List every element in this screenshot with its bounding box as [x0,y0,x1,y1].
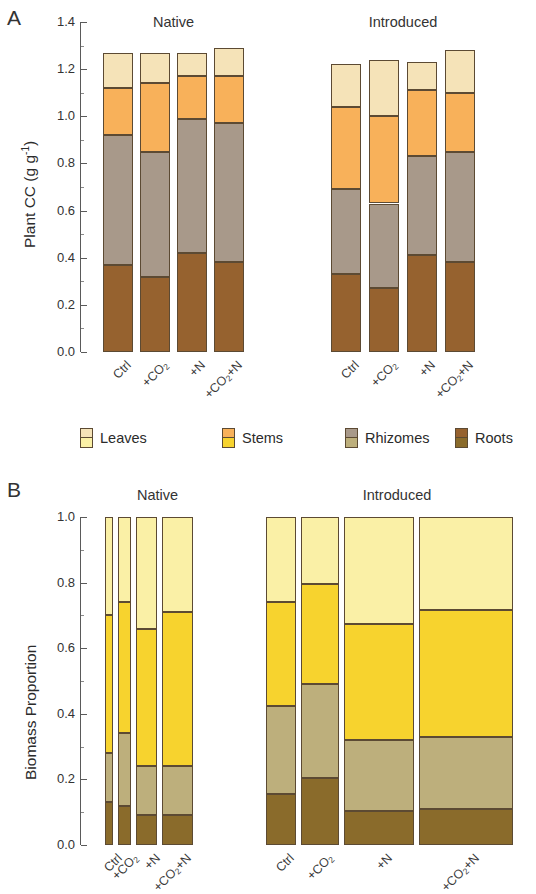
legend-label: Leaves [100,430,147,446]
panel-a-y-axis-tick [81,352,87,353]
panel-a-segment-stems [369,116,399,203]
panel-b-segment-rhizomes [266,706,296,795]
legend-swatch-panel-a [222,428,235,438]
panel-b-y-axis-minor-tick [81,681,84,682]
panel-b-segment-rhizomes [162,766,193,815]
legend-swatch-panel-b [345,438,358,448]
panel-b-y-axis-tick-label: 1.0 [42,509,75,524]
legend-label: Stems [242,430,283,446]
panel-a-segment-stems [331,107,361,190]
panel-a-y-axis-tick-label: 0.0 [42,344,75,359]
panel-a-y-axis-tick [81,22,87,23]
panel-a-segment-leaves [214,48,244,76]
panel-a-segment-roots [407,255,437,352]
panel-a-segment-leaves [369,60,399,117]
panel-b-segment-leaves [301,517,339,584]
panel-a-plot-area: 0.00.20.40.60.81.01.21.4Ctrl+CO2+N+CO2+N… [0,0,536,420]
panel-a-y-axis-tick-label: 1.0 [42,108,75,123]
panel-b-segment-leaves [344,517,414,624]
panel-a-segment-rhizomes [103,135,133,265]
panel-b-segment-stems [266,602,296,705]
panel-a-segment-roots [177,253,207,352]
panel-a-y-axis-tick [81,116,87,117]
panel-b: B Native Introduced Biomass Proportion 0… [0,475,536,894]
panel-b-segment-leaves [118,517,131,602]
panel-a-segment-rhizomes [445,152,475,263]
panel-b-segment-leaves [419,517,513,610]
panel-a-segment-leaves [445,50,475,92]
panel-b-bar [344,517,414,845]
panel-a-segment-leaves [103,53,133,88]
panel-a-segment-leaves [331,64,361,106]
panel-a-y-axis-tick-label: 0.4 [42,250,75,265]
panel-a-y-axis-minor-tick [81,281,84,282]
panel-b-y-axis-tick-label: 0.6 [42,640,75,655]
panel-a-segment-roots [331,274,361,352]
panel-a-y-axis-tick-label: 1.2 [42,61,75,76]
legend-swatch-pair [345,428,358,448]
panel-b-segment-leaves [162,517,193,612]
panel-a-segment-rhizomes [331,189,361,274]
panel-a-segment-stems [214,76,244,123]
panel-b-segment-leaves [136,517,157,629]
panel-a: A Native Introduced Plant CC (g g-1) 0.0… [0,0,536,420]
panel-b-y-axis-tick [81,779,87,780]
panel-a-y-axis-tick-label: 0.6 [42,203,75,218]
panel-a-y-axis-minor-tick [81,328,84,329]
legend-label: Rhizomes [365,430,429,446]
panel-a-y-axis-minor-tick [81,46,84,47]
panel-a-segment-stems [177,76,207,118]
panel-b-segment-roots [105,802,113,845]
legend-swatch-panel-a [455,428,468,438]
panel-a-segment-roots [140,277,170,352]
panel-b-y-axis-tick-label: 0.8 [42,575,75,590]
legend-row: LeavesStemsRhizomesRoots [0,420,536,475]
panel-b-bar [162,517,193,845]
legend: LeavesStemsRhizomesRoots [0,420,536,475]
legend-item-rhizomes[interactable]: Rhizomes [345,428,429,448]
panel-b-segment-stems [301,584,339,684]
panel-a-segment-roots [103,265,133,352]
panel-a-segment-roots [445,262,475,352]
panel-a-bar [140,22,170,352]
panel-a-segment-rhizomes [177,119,207,253]
panel-b-segment-rhizomes [344,740,414,811]
panel-a-y-axis-tick [81,211,87,212]
panel-a-y-axis-minor-tick [81,187,84,188]
legend-item-roots[interactable]: Roots [455,428,513,448]
panel-a-bar [369,22,399,352]
panel-a-bar [103,22,133,352]
panel-b-y-axis-tick-label: 0.4 [42,706,75,721]
panel-a-y-axis-minor-tick [81,234,84,235]
legend-label: Roots [475,430,513,446]
panel-a-y-axis-tick-label: 1.4 [42,14,75,29]
panel-b-segment-roots [419,809,513,845]
panel-b-y-axis-tick [81,517,87,518]
figure-root: A Native Introduced Plant CC (g g-1) 0.0… [0,0,536,894]
panel-a-y-axis-tick [81,163,87,164]
legend-swatch-panel-b [80,438,93,448]
panel-b-y-axis-minor-tick [81,812,84,813]
panel-a-segment-stems [445,93,475,152]
legend-swatch-panel-a [80,428,93,438]
legend-swatch-panel-b [222,438,235,448]
panel-b-segment-roots [162,815,193,845]
panel-b-y-axis-tick [81,583,87,584]
panel-b-plot-area: 0.00.20.40.60.81.0Ctrl+CO2+N+CO2+NCtrl+C… [0,475,536,894]
panel-a-segment-leaves [140,53,170,84]
panel-b-segment-stems [344,624,414,740]
legend-swatch-pair [80,428,93,448]
panel-b-x-label: +CO2+N [430,851,482,894]
panel-b-segment-roots [136,815,157,845]
panel-b-segment-rhizomes [118,733,131,805]
legend-item-stems[interactable]: Stems [222,428,283,448]
panel-a-segment-roots [369,288,399,352]
panel-b-y-axis-minor-tick [81,550,84,551]
legend-swatch-panel-a [345,428,358,438]
panel-b-segment-stems [419,610,513,736]
legend-swatch-pair [222,428,235,448]
panel-a-y-axis-tick [81,258,87,259]
panel-b-bar [301,517,339,845]
legend-item-leaves[interactable]: Leaves [80,428,147,448]
panel-b-y-axis-tick [81,648,87,649]
